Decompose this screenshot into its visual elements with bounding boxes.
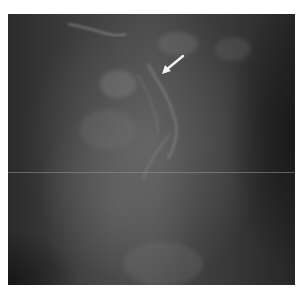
arrow-icon	[8, 14, 295, 285]
radiograph-image	[8, 14, 295, 285]
